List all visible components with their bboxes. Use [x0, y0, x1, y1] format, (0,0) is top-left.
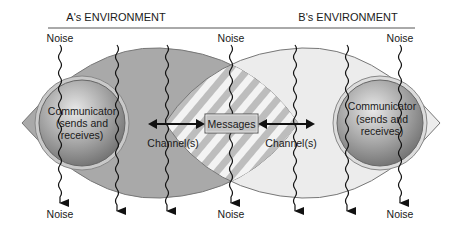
communicator-b-title: Communicator	[348, 100, 417, 112]
messages-label: Messages	[208, 118, 256, 130]
environment-b-header: B's ENVIRONMENT	[231, 11, 415, 28]
noise-label-bottom-right: Noise	[387, 208, 414, 220]
noise-label-top-center: Noise	[218, 32, 245, 44]
messages-box: Messages	[205, 114, 258, 133]
channel-label-right: Channel(s)	[265, 137, 316, 149]
noise-label-bottom-center: Noise	[218, 208, 245, 220]
communicator-b-subtitle-2: receives)	[361, 125, 404, 137]
communicator-a-subtitle-1: (sends and	[56, 117, 108, 129]
noise-label-top-left: Noise	[47, 32, 74, 44]
communicator-a: Communicator (sends and receives)	[35, 76, 129, 170]
communicator-a-subtitle-2: receives)	[61, 129, 104, 141]
noise-label-top-right: Noise	[387, 32, 414, 44]
channel-label-left: Channel(s)	[147, 137, 198, 149]
environment-b-label: B's ENVIRONMENT	[298, 11, 398, 23]
communicator-b-subtitle-1: (sends and	[356, 113, 408, 125]
communicator-b: Communicator (sends and receives)	[333, 76, 427, 170]
environment-a-label: A's ENVIRONMENT	[66, 11, 166, 23]
communication-model-diagram: A's ENVIRONMENT B's ENVIRONMENT Communic…	[0, 0, 462, 230]
noise-label-bottom-left: Noise	[47, 208, 74, 220]
environment-a-header: A's ENVIRONMENT	[48, 11, 231, 28]
